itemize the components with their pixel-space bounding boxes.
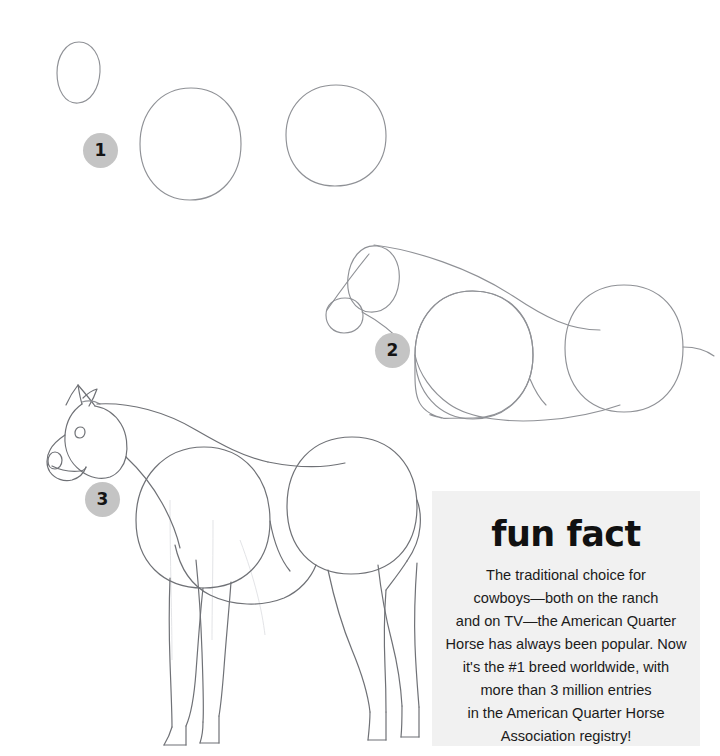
step-3-chest-barrel-circle bbox=[136, 447, 270, 588]
step-badge-3: 3 bbox=[85, 482, 120, 517]
step-3-hindquarter-circle bbox=[287, 437, 417, 574]
nostril bbox=[48, 452, 62, 469]
step-3-foreleg-near bbox=[164, 578, 203, 745]
step-3-rump-tail-base bbox=[386, 500, 420, 590]
step-3-hindleg-near bbox=[328, 570, 386, 740]
step-2-hindquarter-circle bbox=[565, 285, 683, 412]
step-3-forelock bbox=[82, 401, 100, 404]
step-badge-1: 1 bbox=[83, 133, 118, 168]
step-3-eye bbox=[75, 427, 85, 438]
fun-fact-title: fun fact bbox=[440, 517, 692, 552]
fun-fact-panel: fun fact The traditional choice for cowb… bbox=[432, 491, 700, 746]
step-3-ghost-construction bbox=[170, 500, 265, 660]
step-2-topline bbox=[374, 245, 600, 330]
step-3-muzzle bbox=[47, 435, 86, 481]
step-3-foreleg-far bbox=[196, 560, 231, 743]
step-badge-1-label: 1 bbox=[95, 142, 107, 159]
step-badge-3-label: 3 bbox=[97, 491, 109, 508]
step-2-barrel-circle bbox=[415, 291, 533, 419]
step-3-head-outline bbox=[65, 404, 127, 478]
step-2-rump-tail-line bbox=[683, 347, 714, 356]
step-3-ears bbox=[66, 385, 97, 406]
step-badge-2-label: 2 bbox=[387, 342, 399, 359]
step-2-head-egg bbox=[348, 246, 400, 312]
drawing-tutorial-page: 1 2 3 fun fact The traditional choice fo… bbox=[0, 0, 720, 756]
step-2-muzzle-circle bbox=[326, 298, 363, 333]
step-3-hindleg-far bbox=[378, 563, 419, 737]
fun-fact-body: The traditional choice for cowboys—both … bbox=[440, 564, 692, 748]
step-1-head-egg bbox=[57, 42, 100, 103]
step-badge-2: 2 bbox=[375, 333, 410, 368]
step-3-neck-and-topline bbox=[97, 404, 345, 548]
step-1-barrel-circle bbox=[140, 88, 241, 200]
step-1-hindquarter-circle bbox=[286, 85, 386, 186]
step-2-belly-line bbox=[415, 355, 620, 421]
step-3-belly-and-flank bbox=[175, 521, 316, 604]
